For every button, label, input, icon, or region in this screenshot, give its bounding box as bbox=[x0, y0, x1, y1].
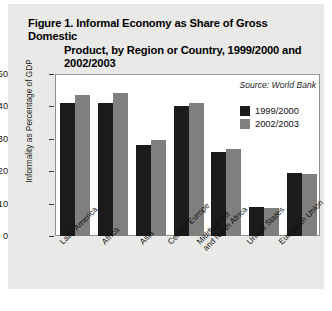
bar-group bbox=[60, 74, 90, 236]
bar-european-union-2002-2003 bbox=[302, 174, 317, 236]
y-tick-mark bbox=[49, 139, 54, 140]
bar-united-states-2002-2003 bbox=[264, 208, 279, 237]
bar-group bbox=[174, 74, 204, 236]
y-tick-mark bbox=[49, 204, 54, 205]
y-tick-mark bbox=[49, 106, 54, 107]
page-title: Figure 1. Informal Economy as Share of G… bbox=[28, 17, 310, 71]
y-tick-label: 20 bbox=[0, 166, 8, 176]
bar-asia-1999-2000 bbox=[136, 145, 151, 236]
legend-item: 1999/2000 bbox=[240, 105, 314, 117]
bar-central-europe-2002-2003 bbox=[189, 103, 204, 236]
bars-layer bbox=[55, 74, 320, 236]
bar-group bbox=[249, 74, 279, 236]
y-tick-mark bbox=[49, 74, 54, 75]
figure-title-line-3: 2002/2003 bbox=[28, 57, 310, 70]
y-tick-label: 10 bbox=[0, 199, 8, 209]
bar-middle-east-and-north-africa-1999-2000 bbox=[211, 152, 226, 236]
bar-central-europe-1999-2000 bbox=[174, 106, 189, 236]
source-note: Source: World Bank bbox=[240, 80, 316, 90]
y-tick-mark bbox=[49, 236, 54, 237]
bar-european-union-1999-2000 bbox=[287, 173, 302, 236]
bar-latin-america-2002-2003 bbox=[75, 95, 90, 236]
bar-asia-2002-2003 bbox=[151, 140, 166, 236]
legend-item: 2002/2003 bbox=[240, 118, 314, 130]
bar-group bbox=[287, 74, 317, 236]
y-tick-mark bbox=[49, 171, 54, 172]
bar-africa-1999-2000 bbox=[98, 103, 113, 236]
y-axis-label: Informality as Percentage of GDP bbox=[24, 36, 34, 206]
bar-africa-2002-2003 bbox=[113, 93, 128, 236]
chart-legend: 1999/20002002/2003 bbox=[240, 105, 314, 131]
figure-title-line-1: Figure 1. Informal Economy as Share of G… bbox=[28, 17, 268, 42]
figure-card: Figure 1. Informal Economy as Share of G… bbox=[8, 4, 324, 289]
bar-latin-america-1999-2000 bbox=[60, 103, 75, 236]
y-tick-label: 40 bbox=[0, 101, 8, 111]
legend-swatch-icon bbox=[240, 119, 250, 129]
y-tick-label: 30 bbox=[0, 134, 8, 144]
bar-group bbox=[211, 74, 241, 236]
figure-title-line-2: Product, by Region or Country, 1999/2000… bbox=[28, 44, 310, 57]
bar-middle-east-and-north-africa-2002-2003 bbox=[226, 149, 241, 236]
y-tick-label: 50 bbox=[0, 69, 8, 79]
bar-group bbox=[98, 74, 128, 236]
bar-united-states-1999-2000 bbox=[249, 207, 264, 236]
legend-swatch-icon bbox=[240, 106, 250, 116]
bar-group bbox=[136, 74, 166, 236]
legend-label: 1999/2000 bbox=[255, 106, 299, 116]
y-tick-label: 0 bbox=[0, 231, 8, 241]
legend-label: 2002/2003 bbox=[255, 119, 299, 129]
